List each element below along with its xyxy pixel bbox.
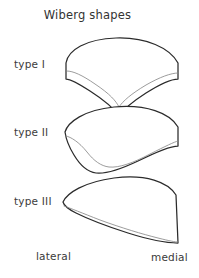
shape-type-3 (63, 177, 178, 243)
shape-type-2 (65, 106, 178, 173)
wiberg-shapes-figure: Wiberg shapes type I type II type III la… (0, 0, 199, 278)
shape-type-1 (66, 38, 178, 116)
wiberg-shape-drawings (0, 0, 199, 278)
shape-type-2-outline (65, 106, 178, 173)
shape-type-3-outline (63, 177, 178, 243)
